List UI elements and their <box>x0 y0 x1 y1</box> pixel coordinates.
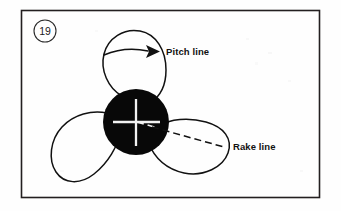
propeller-diagram: 19 Pitch line <box>0 0 341 211</box>
figure-number-text: 19 <box>39 25 51 37</box>
pitch-line-label: Pitch line <box>166 46 209 57</box>
figure-container: 19 Pitch line <box>0 0 341 211</box>
page-background <box>0 0 341 211</box>
rake-line-label: Rake line <box>233 141 276 152</box>
